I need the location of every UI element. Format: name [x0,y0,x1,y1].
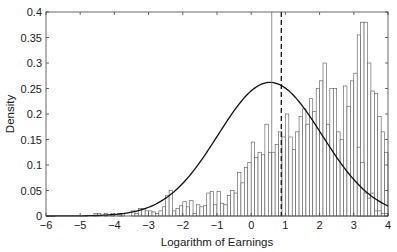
x-tick-label: −1 [211,219,224,231]
x-tick-label: 4 [385,219,391,231]
histogram-bar [374,94,377,216]
histogram-bar [203,206,206,216]
x-axis-label: Logarithm of Earnings [161,236,274,248]
x-tick-label: 3 [351,219,357,231]
histogram-bar [227,196,230,216]
y-tick-label: 0.15 [21,134,42,146]
histogram-chart: −6−5−4−3−2−101234 00.050.10.150.20.250.3… [0,0,397,252]
histogram-bar [316,89,319,217]
histogram-bars [94,22,388,216]
histogram-bar [183,202,186,216]
y-tick-label: 0.4 [27,6,42,18]
histogram-bar [149,211,152,216]
histogram-bar [326,124,329,216]
x-tick-label: 1 [282,219,288,231]
histogram-bar [186,207,189,216]
histogram-bar [385,152,388,216]
histogram-bar [364,193,367,216]
x-tick-label: 2 [317,219,323,231]
x-tick-label: −5 [74,219,87,231]
histogram-bar [231,191,234,217]
histogram-bar [190,201,193,216]
histogram-bar [173,211,176,216]
histogram-bar [340,140,343,217]
y-tick-label: 0.1 [27,159,42,171]
y-tick-label: 0 [36,210,42,222]
histogram-bar [248,162,251,216]
y-tick-label: 0.05 [21,185,42,197]
histogram-bar [347,106,350,216]
histogram-bar [241,183,244,216]
histogram-bar [224,205,227,216]
histogram-bar [357,147,360,216]
histogram-bar [303,109,306,216]
histogram-bar [364,22,367,216]
histogram-bar [217,192,220,216]
histogram-bar [196,205,199,216]
histogram-bar [200,207,203,216]
histogram-bar [176,208,179,216]
x-tick-label: 0 [248,219,254,231]
y-tick-label: 0.25 [21,83,42,95]
histogram-bar [145,211,148,216]
histogram-bar [337,132,340,216]
histogram-bar [268,152,271,216]
histogram-bar [378,211,381,216]
histogram-bar [367,198,370,216]
y-axis-label: Density [4,95,16,134]
histogram-bar [244,168,247,216]
histogram-bar [159,211,162,216]
histogram-bar [344,86,347,216]
histogram-bar [282,137,285,216]
y-tick-label: 0.3 [27,57,42,69]
histogram-bar [350,81,353,216]
histogram-bar [255,157,258,216]
histogram-bar [210,192,213,216]
histogram-bar [306,124,309,216]
x-tick-label: −3 [142,219,155,231]
histogram-bar [313,111,316,216]
histogram-bar [251,142,254,216]
histogram-bar [166,196,169,216]
histogram-bar [299,117,302,216]
histogram-bar [320,81,323,216]
histogram-bar [265,124,268,216]
histogram-bar [220,203,223,216]
histogram-bar [162,207,165,216]
histogram-bar [275,145,278,216]
histogram-bar [207,193,210,216]
histogram-bar [292,150,295,216]
histogram-bar [272,152,275,216]
histogram-bar [214,205,217,216]
histogram-bar [374,211,377,216]
histogram-bar [179,206,182,216]
histogram-bar [354,73,357,216]
histogram-bar [234,193,237,216]
histogram-bar [261,155,264,216]
histogram-bar [285,114,288,216]
histogram-bar [152,212,155,216]
y-tick-label: 0.2 [27,108,42,120]
histogram-bar [296,132,299,216]
y-tick-label: 0.35 [21,32,42,44]
histogram-bar [289,137,292,216]
x-tick-label: −2 [177,219,190,231]
x-tick-label: −4 [108,219,121,231]
histogram-bar [238,173,241,216]
histogram-bar [258,152,261,216]
